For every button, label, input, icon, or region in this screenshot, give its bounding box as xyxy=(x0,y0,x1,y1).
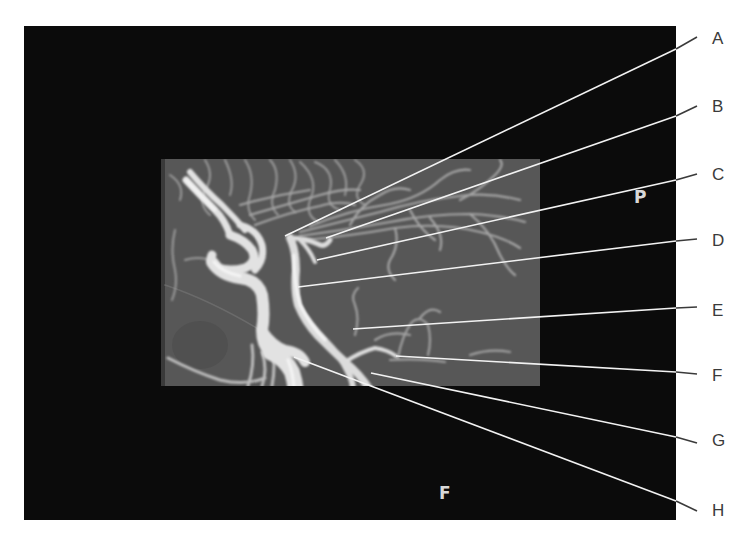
callout-label-d: D xyxy=(712,232,724,249)
callout-label-a: A xyxy=(712,30,723,47)
leader-line-e-outer xyxy=(676,307,697,308)
callout-label-b: B xyxy=(712,98,723,115)
callout-label-e: E xyxy=(712,302,723,319)
leader-line-a-outer xyxy=(676,37,697,49)
leader-line-g-outer xyxy=(676,437,697,443)
callout-label-h: H xyxy=(712,502,724,519)
angiogram-figure xyxy=(0,0,751,540)
leader-line-d-outer xyxy=(676,239,697,241)
callout-label-c: C xyxy=(712,166,724,183)
callout-label-f: F xyxy=(712,367,722,384)
orientation-marker-posterior: P xyxy=(634,189,646,206)
leader-line-b-outer xyxy=(676,106,697,116)
callout-label-g: G xyxy=(712,432,725,449)
orientation-marker-foot: F xyxy=(439,485,451,502)
leader-line-h-outer xyxy=(676,501,697,511)
leader-line-f-outer xyxy=(676,372,697,374)
leader-line-c-outer xyxy=(676,174,697,180)
